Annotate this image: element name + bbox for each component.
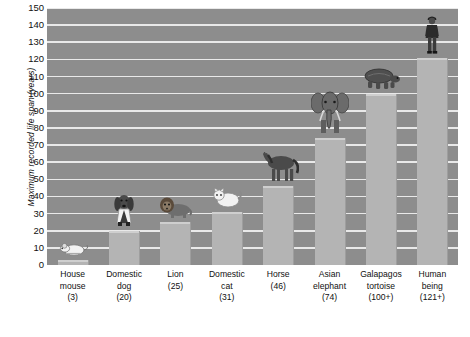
x-axis-label-domestic-dog: Domesticdog(20) (98, 269, 149, 304)
bar-asian-elephant[interactable] (315, 138, 346, 265)
x-label-value: (121+) (407, 292, 458, 304)
y-axis-tick-label: 90 (14, 106, 44, 116)
x-label-line-2: mouse (47, 281, 98, 293)
bar-cap (212, 212, 242, 214)
x-axis-label-galapagos-tortoise: Galapagostortoise(100+) (355, 269, 406, 304)
x-label-line-2: elephant (304, 281, 355, 293)
y-axis-tick-label: 10 (14, 243, 44, 253)
dog-icon (111, 193, 137, 231)
bar-cap (160, 222, 190, 224)
x-label-line-2: being (407, 281, 458, 293)
x-axis-label-human-being: Humanbeing(121+) (407, 269, 458, 304)
x-axis-label-house-mouse: Housemouse(3) (47, 269, 98, 304)
bar-lion[interactable] (160, 222, 191, 265)
y-axis-tick-label: 70 (14, 140, 44, 150)
plot-area (47, 8, 458, 265)
x-label-value: (20) (98, 292, 149, 304)
gridline (47, 59, 458, 61)
y-axis-tick-label: 110 (14, 72, 44, 82)
y-axis-tick-label: 50 (14, 175, 44, 185)
mouse-icon (58, 241, 88, 260)
x-label-line-1: Domestic (201, 269, 252, 281)
x-label-line-1: Asian (304, 269, 355, 281)
lion-icon (158, 196, 192, 222)
gridline (47, 24, 458, 26)
bar-galapagos-tortoise[interactable] (366, 94, 397, 265)
x-label-value: (25) (150, 281, 201, 293)
x-axis-labels: Housemouse(3)Domesticdog(20)Lion(25)Dome… (47, 269, 458, 331)
y-axis-tick-label: 0 (14, 260, 44, 270)
x-label-value: (100+) (355, 292, 406, 304)
bar-cap (366, 94, 396, 96)
y-axis-tick-label: 40 (14, 192, 44, 202)
x-label-value: (46) (253, 281, 304, 293)
tortoise-icon (360, 68, 402, 94)
bar-house-mouse[interactable] (58, 260, 89, 265)
y-axis-tick-label: 20 (14, 226, 44, 236)
bar-horse[interactable] (263, 186, 294, 265)
bar-cap (109, 231, 139, 233)
bar-domestic-dog[interactable] (109, 231, 140, 265)
bar-cap (58, 260, 88, 262)
x-label-line-1: Human (407, 269, 458, 281)
x-axis-label-domestic-cat: Domesticcat(31) (201, 269, 252, 304)
x-label-line-1: Lion (150, 269, 201, 281)
bar-cap (263, 186, 293, 188)
x-label-value: (74) (304, 292, 355, 304)
x-label-value: (31) (201, 292, 252, 304)
x-label-line-1: Domestic (98, 269, 149, 281)
x-label-line-2: dog (98, 281, 149, 293)
y-axis-tick-label: 130 (14, 38, 44, 48)
x-label-line-2: tortoise (355, 281, 406, 293)
y-axis: 0102030405060708090100110120130140150 (14, 0, 44, 337)
chart-root: Maximum recorded life span (years) 01020… (0, 0, 470, 337)
cat-icon (212, 187, 242, 212)
x-label-line-1: Galapagos (355, 269, 406, 281)
y-axis-tick-label: 140 (14, 20, 44, 30)
bar-cap (315, 138, 345, 140)
bar-cap (417, 58, 447, 60)
horse-icon (257, 152, 299, 186)
y-axis-tick-label: 60 (14, 157, 44, 167)
y-axis-tick-label: 120 (14, 55, 44, 65)
x-label-line-1: House (47, 269, 98, 281)
y-axis-tick-label: 30 (14, 209, 44, 219)
human-icon (423, 14, 441, 58)
bar-domestic-cat[interactable] (212, 212, 243, 265)
y-axis-tick-label: 150 (14, 3, 44, 13)
x-axis-label-asian-elephant: Asianelephant(74) (304, 269, 355, 304)
x-axis-label-horse: Horse(46) (253, 269, 304, 292)
gridline (47, 76, 458, 78)
y-axis-tick-label: 80 (14, 123, 44, 133)
x-label-value: (3) (47, 292, 98, 304)
bar-human-being[interactable] (417, 58, 448, 265)
x-axis-label-lion: Lion(25) (150, 269, 201, 292)
x-label-line-1: Horse (253, 269, 304, 281)
x-label-line-2: cat (201, 281, 252, 293)
gridline (47, 8, 458, 9)
elephant-icon (311, 90, 349, 138)
y-axis-tick-label: 100 (14, 89, 44, 99)
gridline (47, 41, 458, 43)
